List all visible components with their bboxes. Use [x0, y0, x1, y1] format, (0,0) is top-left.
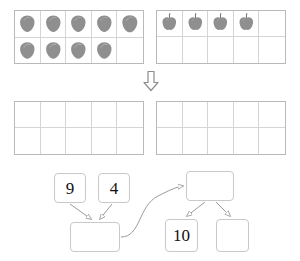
ten-frame-cell — [208, 11, 234, 37]
apple-icon — [183, 11, 208, 36]
strawberry-icon — [92, 38, 117, 63]
ten-frame-cell[interactable] — [157, 102, 183, 128]
bond-box-top-right-blank[interactable] — [186, 171, 234, 201]
arrow-top-right-to-ten — [187, 202, 205, 216]
strawberry-icon — [15, 38, 40, 63]
ten-frame-cell — [234, 37, 260, 63]
ten-frame-cell — [41, 11, 67, 38]
ten-frame-cell[interactable] — [208, 128, 234, 154]
arrow-top-right-to-blank — [216, 202, 230, 216]
bond-box-sum-blank[interactable] — [70, 222, 120, 252]
apple-icon — [208, 11, 233, 36]
ten-frame-cell — [66, 38, 92, 63]
ten-frame-cell[interactable] — [41, 102, 67, 128]
ten-frame-cell[interactable] — [15, 128, 41, 154]
ten-frame-cell — [157, 37, 183, 63]
ten-frame-cell[interactable] — [92, 128, 118, 154]
bond-connectors — [0, 166, 300, 261]
ten-frame-cell — [259, 37, 285, 63]
ten-frame-cell — [183, 37, 209, 63]
ten-frame-cell[interactable] — [234, 128, 260, 154]
ten-frame-cell[interactable] — [92, 102, 118, 128]
number-bond-diagram: 9 4 10 — [0, 166, 300, 261]
ten-frame-cell[interactable] — [259, 102, 285, 128]
arrow-nine-to-sum — [70, 204, 91, 219]
strawberry-icon — [66, 11, 91, 37]
ten-frame-cell[interactable] — [234, 102, 260, 128]
ten-frame-cell — [157, 11, 183, 37]
ten-frame-cell — [66, 11, 92, 38]
ten-frame-cell[interactable] — [15, 102, 41, 128]
ten-frame-cell — [183, 11, 209, 37]
arrow-four-to-sum — [100, 204, 112, 219]
ten-frame-cell[interactable] — [259, 128, 285, 154]
apple-icon — [234, 11, 259, 36]
ten-frame-cell — [117, 11, 143, 38]
ten-frame-cell — [92, 38, 118, 63]
strawberry-icon — [117, 11, 143, 37]
bond-box-four[interactable]: 4 — [98, 173, 130, 203]
strawberry-icon — [15, 11, 40, 37]
ten-frame-cell — [92, 11, 118, 38]
ten-frame-cell — [41, 38, 67, 63]
ten-frame-cell — [15, 38, 41, 63]
ten-frame-cell[interactable] — [157, 128, 183, 154]
ten-frame-cell — [259, 11, 285, 37]
bond-box-ten[interactable]: 10 — [165, 219, 198, 252]
ten-frame-cell[interactable] — [41, 128, 67, 154]
bond-box-nine[interactable]: 9 — [54, 173, 86, 203]
empty-ten-frame-left[interactable] — [14, 101, 144, 155]
ten-frame-cell[interactable] — [66, 102, 92, 128]
apples-ten-frame — [156, 10, 286, 64]
strawberry-icon — [66, 38, 91, 63]
ten-frame-cell — [208, 37, 234, 63]
strawberry-icon — [41, 11, 66, 37]
ten-frame-cell[interactable] — [208, 102, 234, 128]
strawberry-icon — [41, 38, 66, 63]
strawberries-ten-frame — [14, 10, 144, 64]
worksheet-canvas: 9 4 10 — [0, 0, 300, 261]
empty-ten-frame-right[interactable] — [156, 101, 286, 155]
ten-frame-cell — [234, 11, 260, 37]
ten-frame-cell[interactable] — [183, 128, 209, 154]
apple-icon — [157, 11, 182, 36]
strawberry-icon — [92, 11, 117, 37]
down-arrow-icon — [142, 70, 160, 92]
ten-frame-cell[interactable] — [117, 128, 143, 154]
ten-frame-cell[interactable] — [66, 128, 92, 154]
ten-frame-cell — [15, 11, 41, 38]
ten-frame-cell[interactable] — [117, 102, 143, 128]
ten-frame-cell — [117, 38, 143, 63]
ten-frame-cell[interactable] — [183, 102, 209, 128]
bond-box-right-blank[interactable] — [216, 219, 249, 252]
